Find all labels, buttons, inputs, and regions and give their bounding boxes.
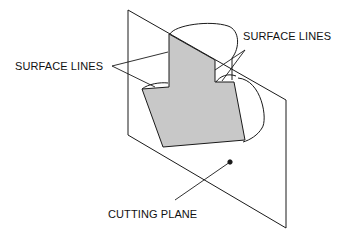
leader-right-a [215,50,245,70]
label-cutting-plane: CUTTING PLANE [108,208,197,220]
leader-left-upper [112,52,168,66]
cutting-plane-diagram: SURFACE LINES SURFACE LINES CUTTING PLAN… [0,0,342,236]
cutting-plane-dot [228,160,232,164]
label-surface-lines-left: SURFACE LINES [15,60,103,72]
label-surface-lines-right: SURFACE LINES [243,30,331,42]
leader-left-lower [112,66,155,87]
section-shaded-area [142,34,245,147]
